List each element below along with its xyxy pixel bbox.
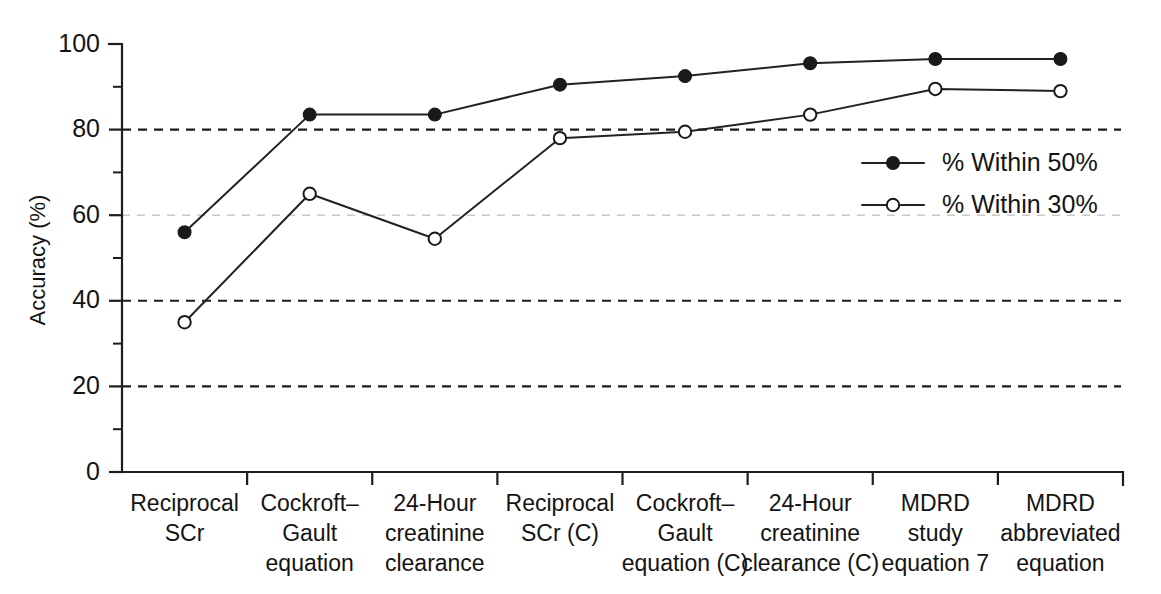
- legend-label-1: % Within 50%: [942, 148, 1098, 176]
- y-tick-label-20: 20: [72, 371, 100, 399]
- data-point-s2-4: [554, 132, 566, 144]
- legend-item-2: % Within 30%: [862, 190, 1098, 218]
- legend-item-1: % Within 50%: [862, 148, 1098, 176]
- y-tick-label-0: 0: [86, 457, 100, 485]
- data-point-s1-7: [929, 53, 942, 66]
- data-point-s2-3: [429, 233, 441, 245]
- data-point-s1-1: [178, 226, 191, 239]
- chart-figure: 020406080100 Accuracy (%) % Within 50%% …: [0, 0, 1161, 594]
- legend-label-2: % Within 30%: [942, 190, 1098, 218]
- data-point-s2-8: [1054, 85, 1066, 97]
- y-axis-title: Accuracy (%): [25, 195, 50, 326]
- data-point-s1-5: [679, 70, 692, 83]
- data-point-s1-6: [804, 57, 817, 70]
- y-tick-label-100: 100: [58, 29, 100, 57]
- series-line-1: [185, 59, 1061, 232]
- data-point-s1-4: [554, 78, 567, 91]
- data-point-s2-7: [929, 83, 941, 95]
- data-point-s1-8: [1054, 53, 1067, 66]
- data-point-s2-6: [804, 108, 816, 120]
- data-point-s2-1: [178, 316, 190, 328]
- y-tick-label-80: 80: [72, 114, 100, 142]
- x-axis-ticks: [247, 472, 998, 485]
- y-tick-label-40: 40: [72, 285, 100, 313]
- series-1: [178, 53, 1067, 239]
- y-tick-label-60: 60: [72, 200, 100, 228]
- legend-marker-1: [887, 157, 900, 170]
- line-chart-canvas: 020406080100 Accuracy (%) % Within 50%% …: [0, 0, 1161, 594]
- data-series-group: [178, 53, 1067, 329]
- y-axis-ticks: 020406080100: [58, 29, 122, 485]
- chart-legend: % Within 50%% Within 30%: [862, 148, 1098, 218]
- legend-marker-2: [887, 199, 899, 211]
- data-point-s1-2: [303, 108, 316, 121]
- data-point-s2-5: [679, 126, 691, 138]
- data-point-s2-2: [303, 188, 315, 200]
- series-line-2: [185, 89, 1061, 322]
- data-point-s1-3: [428, 108, 441, 121]
